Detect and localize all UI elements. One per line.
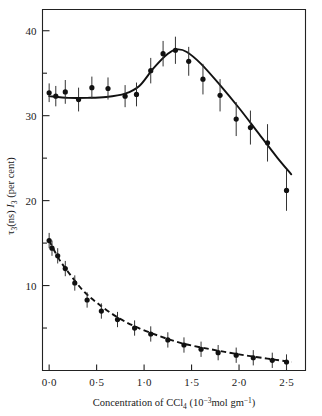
data-point — [270, 358, 275, 363]
data-point — [115, 317, 120, 322]
data-point — [99, 308, 104, 313]
y-tick-label: 20 — [26, 195, 38, 207]
x-tick-label: 2·5 — [279, 376, 294, 388]
data-point — [148, 331, 153, 336]
data-point — [47, 90, 52, 95]
data-point — [134, 92, 139, 97]
data-point — [63, 266, 68, 271]
data-point — [265, 140, 270, 145]
data-point — [234, 353, 239, 358]
data-point — [148, 68, 153, 73]
data-point — [53, 94, 58, 99]
y-tick-label: 10 — [26, 280, 38, 292]
data-point — [123, 94, 128, 99]
data-point — [284, 359, 289, 364]
data-point — [216, 350, 221, 355]
data-point — [72, 280, 77, 285]
data-point — [49, 246, 54, 251]
data-point — [198, 347, 203, 352]
data-point — [63, 89, 68, 94]
data-point — [186, 59, 191, 64]
y-tick-label: 40 — [26, 25, 38, 37]
data-point — [132, 325, 137, 330]
data-point — [234, 116, 239, 121]
y-tick-label: 30 — [26, 110, 38, 122]
data-point — [89, 85, 94, 90]
x-tick-label: 0·0 — [42, 376, 57, 388]
data-point — [85, 297, 90, 302]
data-point — [217, 93, 222, 98]
x-tick-label: 1·0 — [137, 376, 152, 388]
data-point — [251, 355, 256, 360]
data-point — [160, 51, 165, 56]
data-point — [76, 97, 81, 102]
x-tick-label: 1·5 — [184, 376, 199, 388]
data-point — [47, 238, 52, 243]
chart-background — [0, 0, 322, 416]
data-point — [181, 342, 186, 347]
data-point — [248, 125, 253, 130]
data-point — [165, 337, 170, 342]
x-tick-label: 0·5 — [89, 376, 104, 388]
data-point — [55, 253, 60, 258]
data-point — [284, 188, 289, 193]
chart-canvas: 0·00·51·01·52·02·540302010 Concentration… — [0, 0, 322, 416]
data-point — [200, 77, 205, 82]
x-tick-label: 2·0 — [232, 376, 247, 388]
data-point — [105, 86, 110, 91]
chart-figure: 0·00·51·01·52·02·540302010 Concentration… — [0, 0, 322, 416]
data-point — [173, 48, 178, 53]
